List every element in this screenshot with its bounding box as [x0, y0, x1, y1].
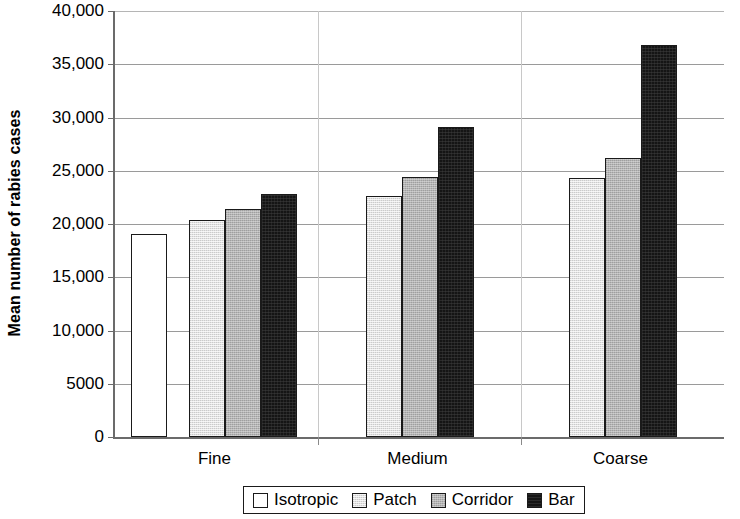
y-axis-tick-label: 35,000 [52, 54, 104, 74]
x-axis-tick [318, 437, 319, 445]
chart-legend: IsotropicPatchCorridorBar [243, 486, 585, 514]
gridline [115, 64, 724, 65]
legend-item-patch: Patch [352, 490, 416, 510]
category-divider [521, 11, 522, 437]
y-axis-tick-label: 15,000 [52, 267, 104, 287]
x-axis-tick [521, 437, 522, 445]
bar-patch-medium [366, 196, 402, 437]
y-axis-tick-label: 20,000 [52, 214, 104, 234]
bar-chart: Mean number of rabies cases 40,00035,000… [0, 0, 740, 519]
legend-swatch-icon [253, 493, 268, 508]
bar-corridor-coarse [605, 158, 641, 437]
y-axis-tick-label: 30,000 [52, 108, 104, 128]
y-axis-title: Mean number of rabies cases [2, 0, 28, 446]
gridline [115, 118, 724, 119]
bar-patch-fine [189, 220, 225, 437]
y-axis-tick-label: 25,000 [52, 161, 104, 181]
y-axis-tick [108, 171, 115, 172]
bar-bar-medium [438, 127, 474, 437]
y-axis-tick [108, 331, 115, 332]
bar-corridor-fine [225, 209, 261, 437]
bar-isotropic-fine [131, 234, 167, 437]
x-axis-label-medium: Medium [387, 449, 447, 469]
legend-item-isotropic: Isotropic [253, 490, 338, 510]
category-divider [318, 11, 319, 437]
legend-swatch-icon [431, 493, 446, 508]
y-axis-tick [108, 277, 115, 278]
y-axis-tick [108, 224, 115, 225]
y-axis-tick-label: 5000 [66, 374, 104, 394]
legend-swatch-icon [527, 493, 542, 508]
x-axis-label-coarse: Coarse [593, 449, 648, 469]
legend-item-corridor: Corridor [431, 490, 513, 510]
legend-label: Patch [373, 490, 416, 510]
x-axis-label-fine: Fine [198, 449, 231, 469]
bar-corridor-medium [402, 177, 438, 437]
bar-patch-coarse [569, 178, 605, 437]
y-axis-tick-label: 40,000 [52, 1, 104, 21]
plot-area: 40,00035,00030,00025,00020,00015,00010,0… [113, 11, 724, 439]
legend-label: Corridor [452, 490, 513, 510]
y-axis-tick-label: 10,000 [52, 321, 104, 341]
bar-bar-coarse [641, 45, 677, 437]
y-axis-tick [108, 64, 115, 65]
y-axis-tick-label: 0 [95, 427, 104, 447]
y-axis-tick [108, 384, 115, 385]
gridline [115, 11, 724, 12]
y-axis-tick [108, 118, 115, 119]
y-axis-tick [108, 11, 115, 12]
y-axis-tick [108, 437, 115, 438]
legend-item-bar: Bar [527, 490, 574, 510]
legend-label: Bar [548, 490, 574, 510]
bar-bar-fine [261, 194, 297, 437]
legend-swatch-icon [352, 493, 367, 508]
legend-label: Isotropic [274, 490, 338, 510]
